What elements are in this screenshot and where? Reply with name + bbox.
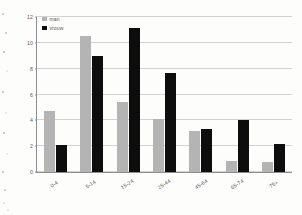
x-label-cell: 0-4	[36, 176, 73, 202]
legend-swatch-icon-vrouw	[42, 26, 47, 31]
y-axis-tick-label: 4	[30, 117, 33, 123]
bar-man	[44, 111, 55, 172]
y-axis-tick-label: 8	[30, 66, 33, 72]
y-axis-tick-label: 12	[27, 14, 33, 20]
bar-vrouw	[92, 56, 103, 172]
bar-man	[117, 102, 128, 172]
bar-group	[219, 17, 255, 172]
bar-man	[226, 161, 237, 172]
y-axis-tick-label: 2	[30, 143, 33, 149]
x-label-cell: 45-64	[182, 176, 219, 202]
x-axis-tick-label: 75+	[268, 179, 279, 189]
y-axis-tick-label: 10	[27, 40, 33, 46]
legend-item-vrouw: vrouw	[42, 25, 63, 31]
x-label-cell: 5-14	[73, 176, 110, 202]
x-label-cell: 15-24	[109, 176, 146, 202]
plot-wrapper: 024681012	[36, 17, 292, 173]
bar-group	[183, 17, 219, 172]
bar-group	[146, 17, 182, 172]
bar-man	[153, 119, 164, 172]
bar-group	[73, 17, 109, 172]
x-axis-tick-label: 0-4	[49, 179, 59, 188]
legend-item-man: man	[42, 16, 63, 22]
chart-legend: man vrouw	[42, 16, 63, 31]
bar-vrouw	[56, 145, 67, 172]
bar-vrouw	[165, 73, 176, 172]
x-axis-tick-label: 25-44	[156, 178, 171, 191]
y-axis-tick-label: 0	[30, 169, 33, 175]
bar-vrouw	[238, 120, 249, 172]
y-axis-tick-label: 6	[30, 92, 33, 98]
x-label-cell: 25-44	[146, 176, 183, 202]
x-axis-tick-label: 45-64	[193, 178, 208, 191]
bar-chart-figure: 024681012 0-45-1415-2425-4445-6465-7475+…	[0, 0, 302, 215]
bar-man	[189, 131, 200, 172]
bar-vrouw	[274, 144, 285, 172]
x-label-cell: 65-74	[219, 176, 256, 202]
x-axis-labels: 0-45-1415-2425-4445-6465-7475+	[36, 176, 292, 202]
bar-group	[37, 17, 73, 172]
bars-layer	[37, 17, 292, 172]
bar-group	[256, 17, 292, 172]
bar-group	[110, 17, 146, 172]
x-axis-tick-label: 5-14	[85, 179, 97, 190]
plot-area: 024681012	[36, 17, 292, 173]
legend-label-man: man	[50, 16, 60, 22]
x-axis-tick-label: 65-74	[230, 178, 245, 191]
x-label-cell: 75+	[255, 176, 292, 202]
scan-artifact-margin	[0, 0, 14, 215]
x-axis-tick-label: 15-24	[120, 178, 135, 191]
bar-vrouw	[129, 28, 140, 172]
legend-swatch-icon-man	[42, 17, 47, 22]
bar-vrouw	[201, 129, 212, 172]
legend-label-vrouw: vrouw	[50, 25, 64, 31]
bar-man	[262, 162, 273, 172]
bar-man	[80, 36, 91, 172]
